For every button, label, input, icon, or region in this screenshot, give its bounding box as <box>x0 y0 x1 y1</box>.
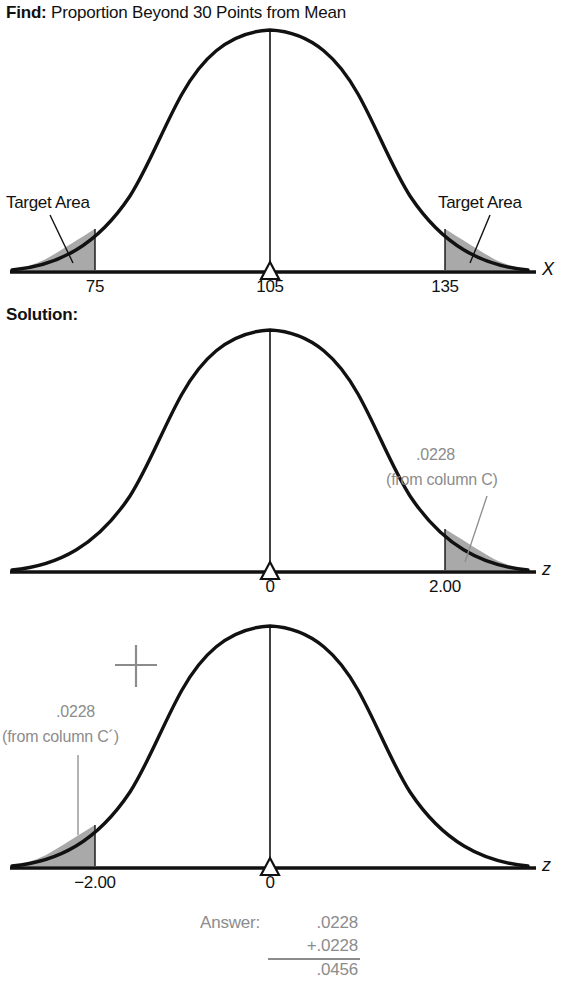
annotation-source-z-lower: (from column C´) <box>2 728 119 746</box>
tick-label-z-0-lower: 0 <box>240 873 300 893</box>
answer-term-1: .0228 <box>250 913 358 933</box>
answer-total: .0456 <box>250 960 358 980</box>
axis-variable-z-lower: z <box>542 855 551 876</box>
shaded-left-tail-z-lower <box>12 825 95 866</box>
tick-label-z-neg200: −2.00 <box>65 873 125 893</box>
panel-z-lower-graphic <box>0 0 562 983</box>
answer-term-2: +.0228 <box>250 936 358 956</box>
annotation-value-z-lower: .0228 <box>56 703 95 721</box>
normal-distribution-figure: Find: Proportion Beyond 30 Points from M… <box>0 0 562 983</box>
